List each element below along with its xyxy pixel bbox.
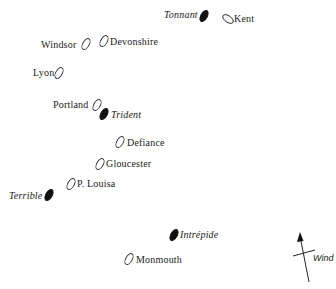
ship-label-kent: Kent: [234, 13, 254, 25]
ship-marker-tonnant: [198, 9, 210, 23]
ship-label-terrible: Terrible: [9, 190, 42, 202]
ship-label-portland: Portland: [53, 99, 89, 111]
ship-label-gloucester: Gloucester: [106, 158, 151, 170]
ship-label-monmouth: Monmouth: [136, 254, 182, 266]
ship-label-tonnant: Tonnant: [164, 9, 198, 21]
ship-label-lyon: Lyon: [33, 67, 54, 79]
ship-marker-windsor: [80, 37, 92, 51]
wind-arrow-icon: [293, 232, 315, 282]
ship-marker-monmouth: [123, 252, 135, 266]
ship-marker-defiance: [114, 135, 126, 149]
ship-marker-devonshire: [98, 34, 110, 48]
ship-label-p-louisa: P. Louisa: [77, 178, 115, 190]
ship-marker-gloucester: [94, 157, 106, 171]
ship-label-windsor: Windsor: [41, 39, 76, 51]
ship-marker-intr-pide: [168, 228, 180, 242]
ship-label-devonshire: Devonshire: [110, 36, 158, 48]
ship-marker-portland: [91, 98, 103, 112]
wind-label: Wind: [313, 253, 333, 263]
ship-label-defiance: Defiance: [127, 137, 165, 149]
ship-marker-terrible: [43, 188, 55, 202]
ship-label-trident: Trident: [111, 109, 141, 121]
ship-label-intrepide: Intrépide: [180, 229, 218, 241]
naval-battle-diagram: Tonnant Kent Windsor Devonshire Lyon Por…: [0, 0, 336, 289]
ship-marker-trident: [98, 107, 110, 121]
ship-marker-lyon: [53, 66, 65, 80]
ship-marker-kent: [221, 13, 235, 25]
ship-marker-p-louisa: [65, 177, 77, 191]
